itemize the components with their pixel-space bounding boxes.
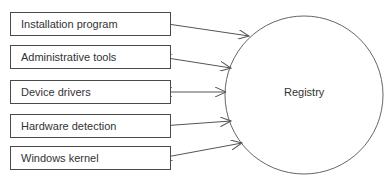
- box-device-drivers: Device drivers: [10, 80, 171, 104]
- box-label: Device drivers: [21, 86, 91, 98]
- arrow-kernel-registry: [161, 143, 242, 158]
- arrow-installation-to-registry: [161, 23, 249, 36]
- box-installation-program: Installation program: [10, 12, 171, 36]
- arrow-hardware-detection-to-registry: [161, 121, 231, 126]
- box-label: Hardware detection: [21, 120, 116, 132]
- box-administrative-tools: Administrative tools: [10, 45, 171, 69]
- box-hardware-detection: Hardware detection: [10, 114, 171, 138]
- box-label: Installation program: [21, 18, 118, 30]
- box-label: Administrative tools: [21, 51, 116, 63]
- arrow-admin-tools-registry: [161, 57, 231, 68]
- registry-label: Registry: [284, 86, 324, 98]
- registry-diagram: Installation program Administrative tool…: [0, 0, 390, 180]
- box-windows-kernel: Windows kernel: [10, 146, 171, 170]
- box-label: Windows kernel: [21, 152, 99, 164]
